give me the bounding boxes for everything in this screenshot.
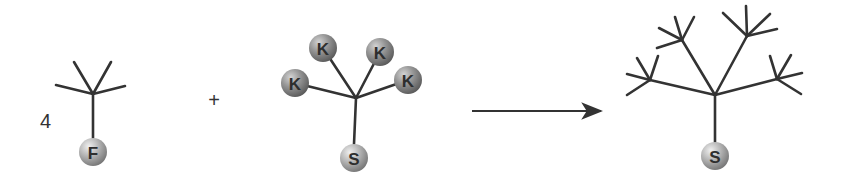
generation-bond xyxy=(715,36,747,95)
atom-label: S xyxy=(348,150,359,169)
terminal-bond xyxy=(657,40,682,48)
atom-label: S xyxy=(709,148,720,167)
terminal-bond xyxy=(777,79,801,94)
plus-icon: + xyxy=(208,89,220,111)
terminal-bond xyxy=(770,56,777,79)
surface-group-s: S xyxy=(701,142,729,170)
focal-bond xyxy=(354,98,356,144)
generation-bond xyxy=(650,80,715,95)
atom-label: K xyxy=(289,75,302,94)
plus-sign: + xyxy=(208,89,220,111)
generation-bond xyxy=(682,40,715,95)
atom-label: F xyxy=(88,144,98,163)
coupling-group-k: K xyxy=(366,38,394,66)
terminal-bond xyxy=(723,13,747,36)
terminal-bond xyxy=(682,17,694,40)
coupling-group-k: K xyxy=(281,69,309,97)
reactant-core-with-coupling-groups: KKKKS xyxy=(281,34,422,172)
reactant-dendron-fluoride: F4 xyxy=(40,62,125,166)
terminal-bond xyxy=(650,56,658,80)
surface-group-s: S xyxy=(340,144,368,172)
reaction-diagram: F4 + KKKKS S xyxy=(0,0,845,189)
terminal-bond xyxy=(627,80,650,95)
coupling-group-k: K xyxy=(394,66,422,94)
fluoride-group: F xyxy=(79,138,107,166)
generation-bond xyxy=(715,79,777,95)
atom-label: K xyxy=(317,40,330,59)
coupling-group-k: K xyxy=(309,34,337,62)
terminal-bond xyxy=(746,6,747,36)
stoichiometric-coefficient: 4 xyxy=(40,110,51,132)
product-dendrimer: S xyxy=(627,6,802,170)
atom-label: K xyxy=(402,72,415,91)
atom-label: K xyxy=(374,44,387,63)
